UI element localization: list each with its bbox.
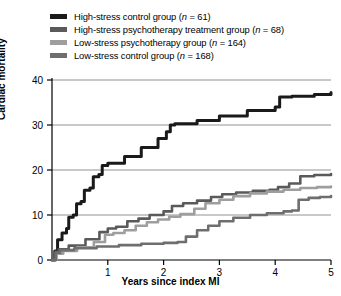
plot-area: 01020304012345 bbox=[0, 0, 341, 296]
y-axis-tick-label: 40 bbox=[32, 75, 44, 86]
series-line-0 bbox=[52, 93, 331, 260]
x-axis-title: Years since index MI bbox=[0, 276, 341, 287]
y-axis-tick-label: 10 bbox=[32, 210, 44, 221]
y-axis-title: Cardiac mortality bbox=[0, 38, 7, 120]
y-axis-tick-label: 20 bbox=[32, 165, 44, 176]
y-axis-tick-label: 30 bbox=[32, 120, 44, 131]
plot-svg: 01020304012345 bbox=[0, 0, 341, 296]
series-line-3 bbox=[52, 196, 331, 260]
y-axis-tick-label: 0 bbox=[37, 255, 43, 266]
cardiac-mortality-figure: High-stress control group (n = 61) High-… bbox=[0, 0, 341, 296]
